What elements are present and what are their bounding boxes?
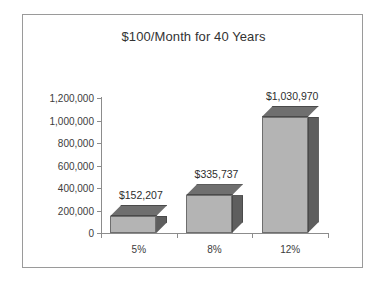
bar-top-face <box>110 205 167 216</box>
y-axis-tick <box>97 121 101 122</box>
x-axis-tick <box>252 233 253 238</box>
chart-title: $100/Month for 40 Years <box>23 29 364 44</box>
y-axis-label: 800,000 <box>58 138 94 149</box>
x-axis-tick <box>177 233 178 238</box>
bar-side-face <box>156 216 167 233</box>
y-axis-tick <box>97 143 101 144</box>
y-axis-label: 0 <box>88 228 94 239</box>
y-axis-tick <box>97 188 101 189</box>
bar-front-face <box>110 216 156 233</box>
bar-front-face <box>262 117 308 233</box>
bar-value-label: $1,030,970 <box>266 90 319 102</box>
x-axis-line <box>101 233 328 234</box>
bar-front-face <box>186 195 232 233</box>
y-axis-tick <box>97 98 101 99</box>
bar-side-face <box>308 117 319 233</box>
y-axis-label: 1,000,000 <box>50 115 95 126</box>
y-axis-tick <box>97 211 101 212</box>
y-axis-label: 200,000 <box>58 205 94 216</box>
x-axis-label: 8% <box>207 244 221 255</box>
bar-value-label: $152,207 <box>119 189 163 201</box>
bar-column[interactable] <box>186 184 243 233</box>
y-axis-tick <box>97 166 101 167</box>
bar-value-label: $335,737 <box>195 168 239 180</box>
x-axis-tick <box>101 233 102 238</box>
plot-area: 0200,000400,000600,000800,0001,000,0001,… <box>101 98 328 233</box>
bar-top-face <box>262 106 319 117</box>
x-axis-label: 5% <box>132 244 146 255</box>
bar-top-face <box>186 184 243 195</box>
y-axis-label: 600,000 <box>58 160 94 171</box>
x-axis-label: 12% <box>280 244 300 255</box>
bar-column[interactable] <box>262 106 319 233</box>
x-axis-tick <box>328 233 329 238</box>
y-axis-line <box>101 97 102 234</box>
bar-column[interactable] <box>110 205 167 233</box>
chart-frame: $100/Month for 40 Years 0200,000400,0006… <box>22 14 363 268</box>
y-axis-label: 400,000 <box>58 183 94 194</box>
y-axis-label: 1,200,000 <box>50 93 95 104</box>
bar-side-face <box>232 195 243 233</box>
